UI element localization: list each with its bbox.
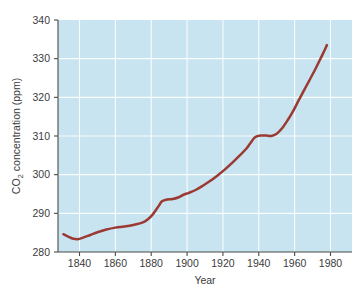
x-tick-label: 1840 bbox=[68, 257, 92, 269]
x-tick-label: 1940 bbox=[247, 257, 271, 269]
y-tick-label: 290 bbox=[32, 207, 50, 219]
x-tick-label: 1960 bbox=[283, 257, 307, 269]
y-tick-label: 280 bbox=[32, 246, 50, 258]
x-axis-title: Year bbox=[194, 274, 216, 286]
x-tick-label: 1920 bbox=[211, 257, 235, 269]
x-tick-label: 1980 bbox=[319, 257, 343, 269]
co2-concentration-line-chart: 18401860188019001920194019601980 2802903… bbox=[0, 0, 362, 295]
y-tick-label: 330 bbox=[32, 52, 50, 64]
y-tick-label: 310 bbox=[32, 130, 50, 142]
x-tick-label: 1880 bbox=[140, 257, 164, 269]
y-axis-title-rest: concentration (ppm) bbox=[10, 78, 22, 174]
x-tick-label: 1860 bbox=[104, 257, 128, 269]
y-axis-title-co: CO bbox=[10, 178, 22, 194]
y-tick-label: 320 bbox=[32, 91, 50, 103]
y-tick-label: 340 bbox=[32, 14, 50, 26]
y-tick-label: 300 bbox=[32, 168, 50, 180]
chart-figure: 18401860188019001920194019601980 2802903… bbox=[0, 0, 362, 295]
x-tick-label: 1900 bbox=[175, 257, 199, 269]
